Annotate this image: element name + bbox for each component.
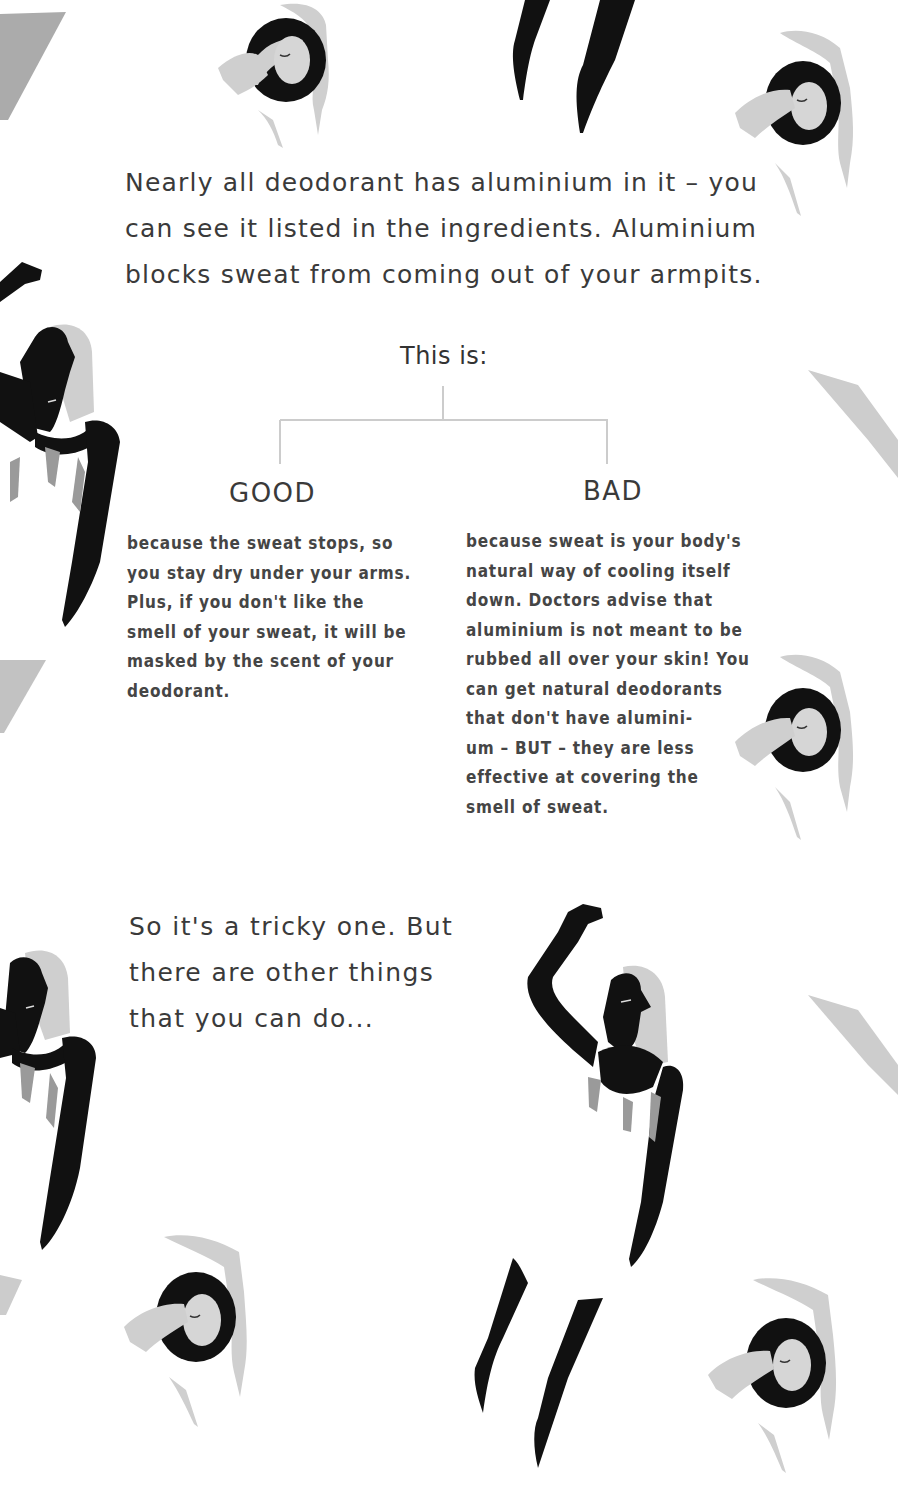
good-line: because the sweat stops, so (127, 529, 411, 559)
standing-woman-illustration (0, 948, 100, 1253)
bad-line: natural way of cooling itself (466, 557, 750, 587)
standing-woman-arm-raised-illustration (523, 902, 683, 1272)
outro-line: there are other things (129, 950, 453, 996)
good-line: deodorant. (127, 677, 411, 707)
bad-explanation: because sweat is your body's natural way… (466, 527, 750, 822)
gray-shape-decoration (808, 995, 898, 1105)
tree-connector-lines (278, 386, 610, 466)
reclining-woman-illustration (218, 0, 368, 150)
intro-line: blocks sweat from coming out of your arm… (125, 252, 765, 298)
gray-shape-decoration (808, 370, 898, 480)
diagram-root-label: This is: (400, 342, 488, 370)
intro-line: can see it listed in the ingredients. Al… (125, 206, 765, 252)
outro-line: that you can do... (129, 996, 453, 1042)
intro-paragraph: Nearly all deodorant has aluminium in it… (125, 160, 765, 298)
good-line: smell of your sweat, it will be (127, 618, 411, 648)
intro-line: Nearly all deodorant has aluminium in it… (125, 160, 765, 206)
bad-line: down. Doctors advise that (466, 586, 750, 616)
reclining-woman-illustration (708, 1275, 878, 1475)
reclining-woman-illustration (124, 1232, 284, 1427)
good-line: Plus, if you don't like the (127, 588, 411, 618)
bad-line: that don't have alumini- (466, 704, 750, 734)
good-explanation: because the sweat stops, so you stay dry… (127, 529, 411, 706)
bad-line: aluminium is not meant to be (466, 616, 750, 646)
outro-line: So it's a tricky one. But (129, 904, 453, 950)
good-line: masked by the scent of your (127, 647, 411, 677)
gray-shape-decoration (0, 658, 50, 738)
reclining-woman-illustration (735, 652, 885, 842)
outro-paragraph: So it's a tricky one. But there are othe… (129, 904, 453, 1042)
good-line: you stay dry under your arms. (127, 559, 411, 589)
bad-line: effective at covering the (466, 763, 750, 793)
gray-shape-decoration (0, 1275, 25, 1320)
bad-heading: BAD (583, 476, 643, 506)
bad-line: smell of sweat. (466, 793, 750, 823)
bad-line: um – BUT – they are less (466, 734, 750, 764)
bad-line: because sweat is your body's (466, 527, 750, 557)
good-heading: GOOD (229, 478, 316, 508)
standing-woman-illustration (0, 262, 125, 632)
legs-illustration (505, 0, 650, 140)
bad-line: rubbed all over your skin! You (466, 645, 750, 675)
legs-illustration (443, 1258, 603, 1478)
bad-line: can get natural deodorants (466, 675, 750, 705)
gray-shape-decoration (0, 10, 70, 120)
